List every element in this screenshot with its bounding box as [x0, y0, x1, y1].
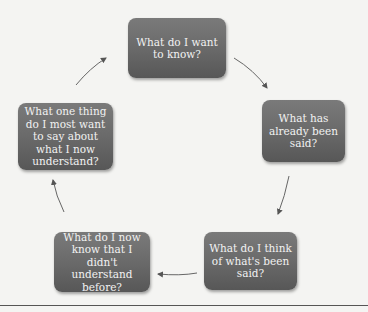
node-what-has-already-been-said: What has already been said?: [262, 100, 345, 162]
node-what-do-i-want-to-know: What do I want to know?: [128, 18, 226, 78]
node-what-one-thing: What one thing do I most want to say abo…: [18, 103, 113, 170]
node-label: What do I now know that I didn't underst…: [59, 231, 145, 294]
node-what-do-i-now-know: What do I now know that I didn't underst…: [54, 232, 150, 292]
arrow-right-to-bottom-right: [278, 176, 289, 214]
node-label: What one thing do I most want to say abo…: [23, 105, 108, 168]
bottom-rule: [0, 305, 368, 306]
arrow-bottom-left-to-left: [53, 180, 64, 212]
arrow-bottom-right-to-bottom-left: [158, 273, 197, 275]
node-label: What do I want to know?: [133, 36, 221, 61]
arrow-top-to-right: [234, 58, 267, 88]
node-what-do-i-think-of-whats-been-said: What do I think of what's been said?: [204, 232, 297, 290]
node-label: What has already been said?: [267, 112, 340, 150]
node-label: What do I think of what's been said?: [209, 242, 292, 280]
arrow-left-to-top: [76, 58, 106, 85]
